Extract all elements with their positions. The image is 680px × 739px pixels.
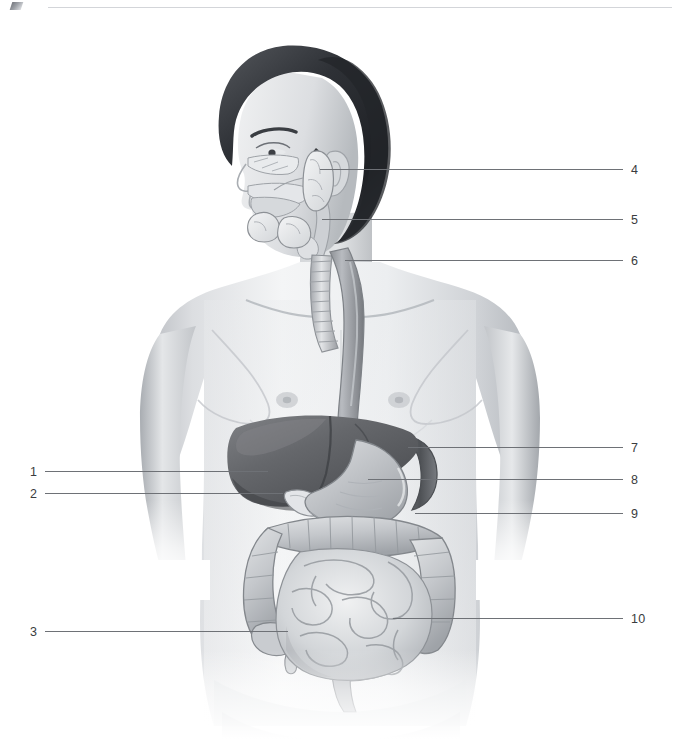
leader-line-5	[322, 219, 623, 220]
leader-line-4	[320, 169, 623, 170]
label-number-4[interactable]: 4	[631, 164, 638, 177]
label-number-7[interactable]: 7	[631, 442, 638, 455]
leader-line-10	[393, 618, 623, 619]
label-number-1[interactable]: 1	[30, 466, 37, 479]
leader-line-7	[408, 447, 623, 448]
leader-line-3	[45, 631, 288, 632]
label-number-9[interactable]: 9	[631, 508, 638, 521]
leader-line-1	[45, 471, 268, 472]
label-number-6[interactable]: 6	[631, 255, 638, 268]
leader-line-6	[345, 260, 623, 261]
label-number-3[interactable]: 3	[30, 626, 37, 639]
label-number-2[interactable]: 2	[30, 488, 37, 501]
label-number-5[interactable]: 5	[631, 214, 638, 227]
label-number-8[interactable]: 8	[631, 474, 638, 487]
leader-line-9	[415, 513, 623, 514]
figure-page: 12345678910	[0, 0, 680, 739]
label-number-10[interactable]: 10	[631, 613, 645, 626]
digestive-system-illustration	[0, 0, 680, 739]
leader-line-2	[45, 493, 283, 494]
leader-line-8	[368, 479, 623, 480]
